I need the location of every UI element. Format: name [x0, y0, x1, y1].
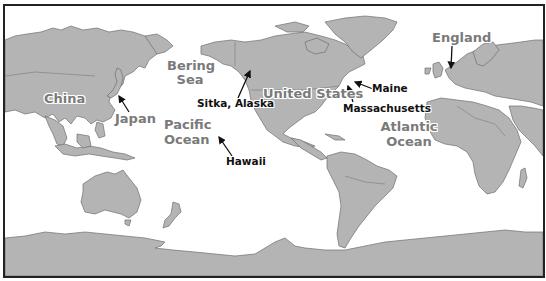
label-bering-sea-2: Sea [167, 73, 213, 87]
south-america [327, 152, 397, 248]
label-massachusetts: Massachusetts [343, 103, 431, 114]
australia [81, 170, 141, 218]
world-map-frame: China Bering Sea Japan Pacific Ocean Uni… [3, 4, 545, 278]
world-map [5, 6, 543, 276]
label-england: England [432, 31, 491, 45]
label-united-states: United States [263, 87, 363, 101]
label-pacific-1: Pacific [164, 118, 211, 132]
label-china: China [44, 92, 85, 106]
label-maine: Maine [372, 83, 408, 94]
label-atlantic-1: Atlantic [377, 120, 441, 134]
new-zealand [163, 202, 181, 228]
british-isles [433, 62, 443, 78]
label-japan: Japan [115, 112, 156, 126]
label-pacific-2: Ocean [164, 133, 210, 147]
label-sitka-alaska: Sitka, Alaska [197, 98, 274, 109]
label-bering-sea-1: Bering [167, 59, 213, 73]
antarctica [5, 230, 543, 276]
label-hawaii: Hawaii [226, 156, 266, 167]
asia-landmass [5, 26, 165, 124]
southeast-asia [45, 116, 67, 146]
label-atlantic-2: Ocean [377, 135, 441, 149]
indonesia [55, 144, 135, 160]
